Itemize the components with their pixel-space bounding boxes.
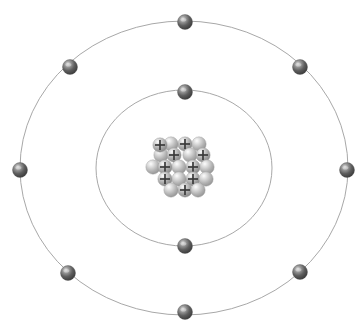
electron-sphere <box>293 60 308 75</box>
neutron-sphere <box>191 183 205 197</box>
electron-highlight <box>180 88 186 92</box>
electron-inner-top <box>178 85 193 100</box>
neutron-particle <box>191 183 205 197</box>
electron-highlight <box>65 63 71 67</box>
electron-highlight <box>180 18 186 22</box>
electron-highlight <box>63 269 69 273</box>
electron-highlight <box>295 268 301 272</box>
electron-sphere <box>63 60 78 75</box>
electron-sphere <box>178 239 193 254</box>
electron-outer-left <box>13 163 28 178</box>
proton-particle <box>178 183 192 197</box>
electron-outer-lower-left <box>61 266 76 281</box>
electron-highlight <box>180 308 186 312</box>
electron-sphere <box>61 266 76 281</box>
electron-highlight <box>15 166 21 170</box>
neutron-particle <box>164 183 178 197</box>
nucleus <box>146 137 214 197</box>
electron-outer-upper-left <box>63 60 78 75</box>
proton-particle <box>153 138 167 152</box>
electron-highlight <box>342 166 348 170</box>
electron-outer-top <box>178 15 193 30</box>
electron-sphere <box>178 305 193 320</box>
neutron-sphere <box>164 183 178 197</box>
electron-outer-bottom <box>178 305 193 320</box>
electron-highlight <box>180 242 186 246</box>
electron-outer-upper-right <box>293 60 308 75</box>
electron-sphere <box>13 163 28 178</box>
atom-diagram: Bohr model of an atom <box>0 0 364 329</box>
electron-sphere <box>178 85 193 100</box>
electron-sphere <box>293 265 308 280</box>
atom-svg-canvas <box>0 0 364 329</box>
electron-inner-bottom <box>178 239 193 254</box>
electron-highlight <box>295 63 301 67</box>
electron-sphere <box>178 15 193 30</box>
electron-outer-lower-right <box>293 265 308 280</box>
electron-sphere <box>340 163 355 178</box>
electron-outer-right <box>340 163 355 178</box>
